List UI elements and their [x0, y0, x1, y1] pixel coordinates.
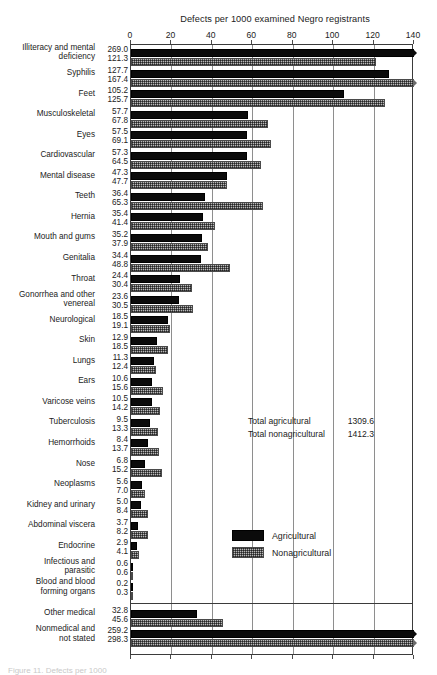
category-label-line1: Other medical: [44, 608, 95, 617]
bar-agricultural: [131, 296, 179, 304]
total-label: Total nonagricultural: [248, 428, 334, 441]
value-nonagricultural: 167.4: [97, 75, 128, 84]
x-tick-label: 0: [128, 30, 133, 40]
legend-swatch-agri: [232, 530, 264, 541]
value-nonagricultural: 18.5: [97, 342, 128, 351]
category-label-line2: venereal: [0, 299, 95, 308]
legend-item: Agricultural: [232, 527, 331, 544]
category-label: Nose: [0, 459, 95, 468]
value-agricultural: 47.3: [97, 168, 128, 177]
value-nonagricultural: 65.3: [97, 198, 128, 207]
legend-item: Nonagricultural: [232, 544, 331, 561]
row-values: 269.0121.3: [97, 45, 128, 63]
row-values: 57.767.8: [97, 107, 128, 125]
category-label: Hemorrhoids: [0, 438, 95, 447]
value-agricultural: 12.9: [97, 333, 128, 342]
category-label: Syphilis: [0, 68, 95, 77]
value-nonagricultural: 4.1: [97, 547, 128, 556]
category-label: Ears: [0, 376, 95, 385]
category-label-line1: Hemorrhoids: [48, 438, 95, 447]
total-row: Total nonagricultural1412.3: [248, 428, 374, 441]
value-agricultural: 57.7: [97, 107, 128, 116]
value-nonagricultural: 41.4: [97, 218, 128, 227]
bar-nonagricultural: [131, 510, 148, 518]
bar-agricultural: [131, 501, 141, 509]
legend-label: Nonagricultural: [272, 548, 331, 558]
row-values: 23.630.5: [97, 292, 128, 310]
section-separator: [131, 603, 412, 604]
bar-nonagricultural: [131, 469, 162, 477]
bar-nonagricultural: [131, 619, 223, 627]
bar-row: [131, 88, 412, 107]
row-values: 18.519.1: [97, 312, 128, 330]
value-nonagricultural: 12.4: [97, 362, 128, 371]
value-agricultural: 9.5: [97, 415, 128, 424]
bar-nonagricultural: [131, 202, 263, 210]
value-nonagricultural: 121.3: [97, 54, 128, 63]
bar-row: [131, 232, 412, 251]
bar-agricultural: [131, 439, 148, 447]
bar-row: [131, 458, 412, 477]
bar-agricultural: [131, 357, 154, 365]
value-nonagricultural: 7.0: [97, 486, 128, 495]
category-label: Throat: [0, 274, 95, 283]
row-values: 36.465.3: [97, 189, 128, 207]
value-nonagricultural: 125.7: [97, 95, 128, 104]
category-label-line1: Neurological: [49, 315, 95, 324]
value-nonagricultural: 47.7: [97, 177, 128, 186]
category-label-line1: Gonorrhea and other: [19, 290, 95, 299]
category-label-line1: Tuberculosis: [49, 417, 95, 426]
bar-agricultural: [131, 255, 201, 263]
category-label: Blood and bloodforming organs: [0, 577, 95, 595]
category-label-line1: Nose: [76, 459, 95, 468]
bar-agricultural: [131, 419, 150, 427]
bar-nonagricultural: [131, 592, 133, 600]
bar-row: [131, 211, 412, 230]
row-values: 57.569.1: [97, 127, 128, 145]
x-tick-mark: [332, 655, 333, 659]
category-label-line1: Cardiovascular: [40, 150, 95, 159]
value-agricultural: 23.6: [97, 292, 128, 301]
row-values: 47.347.7: [97, 168, 128, 186]
x-tick-label: 40: [206, 30, 216, 40]
category-label-line1: Throat: [71, 274, 95, 283]
bar-row: [131, 170, 412, 189]
category-label: Feet: [0, 89, 95, 98]
bar-agricultural: [131, 460, 145, 468]
value-agricultural: 10.6: [97, 374, 128, 383]
category-label: Nonmedical andnot stated: [0, 624, 95, 642]
value-agricultural: 35.4: [97, 209, 128, 218]
row-values: 0.20.3: [97, 579, 128, 597]
value-nonagricultural: 8.4: [97, 506, 128, 515]
bar-row: [131, 294, 412, 313]
bar-nonagricultural: [131, 222, 215, 230]
value-agricultural: 24.4: [97, 271, 128, 280]
category-labels-column: Illiteracy and mentaldeficiency269.0121.…: [0, 44, 130, 655]
category-label-line1: Feet: [79, 89, 95, 98]
value-nonagricultural: 37.9: [97, 239, 128, 248]
category-label-line1: Eyes: [77, 130, 95, 139]
value-agricultural: 36.4: [97, 189, 128, 198]
category-label-line1: Ears: [78, 376, 95, 385]
bar-nonagricultural: [131, 181, 227, 189]
value-agricultural: 127.7: [97, 66, 128, 75]
category-label: Other medical: [0, 608, 95, 617]
value-agricultural: 105.2: [97, 86, 128, 95]
x-tick-label: 20: [166, 30, 176, 40]
bar-nonagricultural: [131, 531, 148, 539]
category-label: Genitalia: [0, 253, 95, 262]
bar-nonagricultural: [131, 99, 385, 107]
category-label-line1: Skin: [79, 335, 95, 344]
x-tick-label: 60: [247, 30, 257, 40]
bar-agricultural: [131, 481, 142, 489]
value-nonagricultural: 19.1: [97, 321, 128, 330]
value-agricultural: 57.5: [97, 127, 128, 136]
bar-agricultural: [131, 70, 389, 78]
value-nonagricultural: 45.6: [97, 615, 128, 624]
bar-agricultural: [131, 213, 203, 221]
bar-nonagricultural: [131, 366, 156, 374]
bar-nonagricultural: [131, 490, 145, 498]
category-label: Neoplasms: [0, 479, 95, 488]
bar-agricultural: [131, 275, 180, 283]
bar-rows: [131, 45, 412, 654]
